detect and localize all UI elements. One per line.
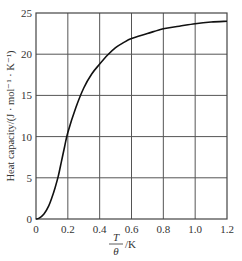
x-label-denominator: θ: [113, 245, 119, 257]
x-tick-label: 0.6: [125, 223, 139, 235]
y-tick-label: 5: [27, 172, 33, 184]
y-tick-label: 15: [21, 89, 33, 101]
x-tick-label: 1.2: [220, 223, 234, 235]
y-tick-label: 25: [21, 7, 33, 19]
y-tick-label: 0: [27, 213, 33, 225]
x-tick-label: 0.4: [93, 223, 107, 235]
y-axis-label: Heat capacity/(J · mol⁻¹ · K⁻¹): [5, 50, 17, 182]
y-tick-label: 20: [21, 48, 33, 60]
x-label-numerator: T: [113, 231, 120, 243]
x-axis-ticks: 00.20.40.60.81.01.2: [33, 223, 234, 235]
grid-lines: [36, 13, 227, 219]
y-tick-label: 10: [21, 131, 33, 143]
x-tick-label: 0.8: [156, 223, 170, 235]
x-tick-label: 1.0: [188, 223, 202, 235]
x-tick-label: 0.2: [61, 223, 75, 235]
heat-capacity-chart: 00.20.40.60.81.01.2 0510152025 Heat capa…: [0, 0, 242, 261]
x-label-unit: /K: [125, 238, 136, 250]
y-axis-ticks: 0510152025: [21, 7, 33, 225]
x-tick-label: 0: [33, 223, 39, 235]
